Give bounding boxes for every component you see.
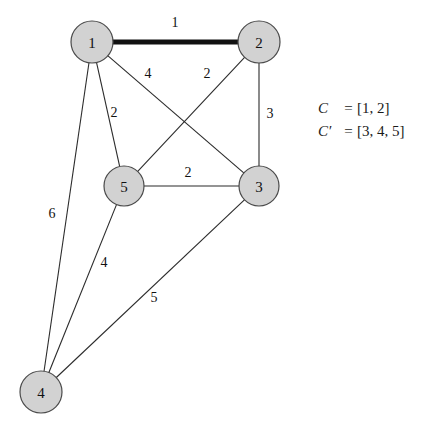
node-label-1: 1 xyxy=(88,35,96,51)
legend-symbol-c-prime: C′ xyxy=(318,120,340,143)
legend-equals: = xyxy=(340,120,357,143)
edge-weight-1-3: 4 xyxy=(145,66,152,81)
legend-row: C′ = [3, 4, 5] xyxy=(318,120,428,143)
edge-5-4 xyxy=(48,204,116,374)
node-label-5: 5 xyxy=(120,179,128,195)
legend-row: C = [1, 2] xyxy=(318,97,428,120)
edge-weight-1-5: 2 xyxy=(111,105,118,120)
edge-1-3 xyxy=(107,55,244,174)
legend-value-c-prime: [3, 4, 5] xyxy=(357,120,405,143)
graph-figure: 12534 142232645 C = [1, 2] C′ = [3, 4, 5… xyxy=(0,0,429,431)
edges-group xyxy=(44,42,259,378)
edge-weight-1-2: 1 xyxy=(172,15,179,30)
legend-value-c: [1, 2] xyxy=(357,97,390,120)
legend-symbol-c: C xyxy=(318,97,340,120)
node-label-2: 2 xyxy=(255,35,263,51)
node-label-4: 4 xyxy=(37,385,45,401)
graph-canvas: 12534 142232645 xyxy=(0,0,429,431)
legend-block: C = [1, 2] C′ = [3, 4, 5] xyxy=(318,97,428,143)
legend-equals: = xyxy=(340,97,357,120)
edge-weight-1-4: 6 xyxy=(49,206,56,221)
edge-weight-5-4: 4 xyxy=(101,255,108,270)
edge-weight-2-3: 3 xyxy=(267,106,274,121)
edge-weight-5-3: 2 xyxy=(185,165,192,180)
node-label-3: 3 xyxy=(255,179,263,195)
edge-2-5 xyxy=(137,57,245,173)
edge-weight-2-5: 2 xyxy=(204,66,211,81)
edge-weight-3-4: 5 xyxy=(151,290,158,305)
